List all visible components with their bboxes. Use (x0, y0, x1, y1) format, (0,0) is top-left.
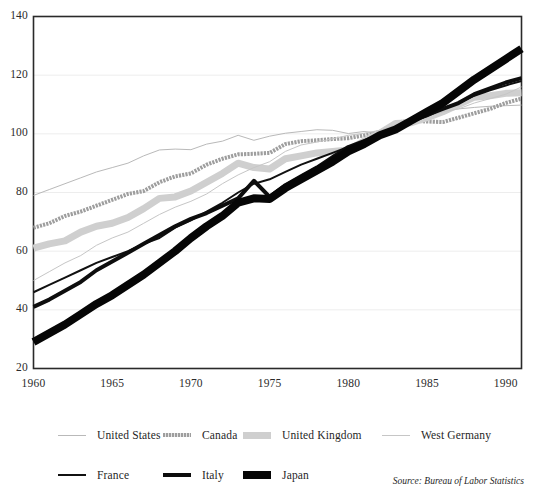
y-tick-label: 80 (2, 185, 28, 197)
y-tick-label: 60 (2, 244, 28, 256)
series-line-united-kingdom (34, 93, 522, 248)
x-tick-label: 1990 (486, 377, 526, 389)
x-tick-label: 1980 (328, 377, 368, 389)
y-tick-label: 20 (2, 361, 28, 373)
legend-item-japan[interactable]: Japan (243, 463, 309, 487)
legend-swatch-icon (243, 471, 271, 479)
legend-swatch-icon (163, 473, 191, 477)
legend-label: West Germany (421, 429, 491, 441)
legend-item-west-germany[interactable]: West Germany (382, 423, 491, 447)
legend-label: United States (97, 429, 161, 441)
chart-legend: United StatesCanadaUnited KingdomWest Ge… (0, 410, 533, 499)
legend-swatch-icon (382, 435, 410, 436)
legend-item-united-states[interactable]: United States (58, 423, 161, 447)
x-tick-label: 1985 (407, 377, 447, 389)
chart-figure: 20406080100120140 1960196519701975198019… (0, 0, 533, 499)
x-tick-label: 1975 (250, 377, 290, 389)
legend-label: United Kingdom (282, 429, 362, 441)
legend-item-united-kingdom[interactable]: United Kingdom (243, 423, 362, 447)
y-tick-label: 140 (2, 9, 28, 21)
series-line-japan (34, 49, 522, 342)
legend-swatch-icon (163, 433, 191, 437)
legend-item-italy[interactable]: Italy (163, 463, 224, 487)
y-tick-label: 100 (2, 126, 28, 138)
y-tick-label: 40 (2, 302, 28, 314)
legend-item-canada[interactable]: Canada (163, 423, 237, 447)
legend-swatch-icon (58, 435, 86, 436)
y-tick-label: 120 (2, 68, 28, 80)
x-tick-label: 1965 (92, 377, 132, 389)
legend-swatch-icon (243, 432, 271, 439)
legend-label: Italy (202, 469, 224, 481)
legend-swatch-icon (58, 474, 86, 476)
legend-label: Canada (202, 429, 237, 441)
x-tick-label: 1970 (171, 377, 211, 389)
legend-item-france[interactable]: France (58, 463, 129, 487)
legend-label: France (97, 469, 129, 481)
legend-row-primary: United StatesCanadaUnited KingdomWest Ge… (0, 423, 533, 449)
source-note: Source: Bureau of Labor Statistics (393, 476, 524, 486)
legend-label: Japan (282, 469, 309, 481)
x-tick-label: 1960 (14, 377, 54, 389)
